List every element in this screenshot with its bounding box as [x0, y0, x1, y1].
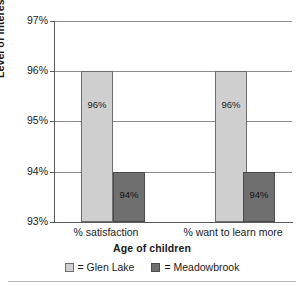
y-tick-label-94: 94%	[4, 166, 48, 177]
bar-value-label: 96%	[216, 100, 246, 110]
bar-value-label: 94%	[114, 190, 144, 200]
gridline	[54, 21, 292, 22]
bottom-divider	[8, 281, 296, 282]
y-axis-line	[54, 21, 55, 223]
x-category-label-want-to-learn-more: % want to learn more	[163, 226, 303, 238]
x-axis-line	[54, 222, 293, 223]
x-category-label-satisfaction: % satisfaction	[46, 226, 166, 238]
legend-item-meadowbrook[interactable]: = Meadowbrook	[151, 261, 239, 273]
bar-want-to-learn-more-meadowbrook[interactable]: 94%	[243, 172, 275, 222]
legend-label-glen-lake: = Glen Lake	[78, 261, 135, 273]
bar-value-label: 96%	[82, 100, 112, 110]
bar-satisfaction-glen-lake[interactable]: 96%	[81, 71, 113, 222]
x-axis-title: Age of children	[0, 242, 304, 254]
y-tick-label-97: 97%	[4, 15, 48, 26]
plot-area: 97% 96% 95% 94% 93% 96% 94%	[54, 21, 292, 222]
bar-chart-figure: Level of interest 97% 96% 95% 94% 93%	[0, 0, 304, 287]
legend-label-meadowbrook: = Meadowbrook	[164, 261, 239, 273]
legend-item-glen-lake[interactable]: = Glen Lake	[65, 261, 135, 273]
bar-satisfaction-meadowbrook[interactable]: 94%	[113, 172, 145, 222]
bar-value-label: 94%	[244, 190, 274, 200]
y-tick-label-93: 93%	[4, 216, 48, 227]
y-tick-label-96: 96%	[4, 65, 48, 76]
y-tick-label-95: 95%	[4, 115, 48, 126]
legend-swatch-icon	[151, 263, 160, 272]
legend-swatch-icon	[65, 263, 74, 272]
chart-legend: = Glen Lake = Meadowbrook	[0, 261, 304, 273]
